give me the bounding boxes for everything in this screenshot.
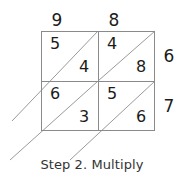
cell-bottom-right-ones-digit: 6 <box>133 109 149 125</box>
top-label-1: 8 <box>103 12 125 29</box>
right-label-1: 7 <box>160 98 178 115</box>
step-caption: Step 2. Multiply <box>0 157 184 172</box>
cell-bottom-left-tens-digit: 6 <box>47 86 63 102</box>
lattice-grid-graphic <box>0 0 184 179</box>
cell-top-left-ones-digit: 4 <box>76 59 92 75</box>
cell-top-left-tens-digit: 5 <box>47 36 63 52</box>
cell-bottom-right-tens-digit: 5 <box>104 86 120 102</box>
right-label-0: 6 <box>160 48 178 65</box>
cell-top-right-ones-digit: 8 <box>133 59 149 75</box>
cell-bottom-left-ones-digit: 3 <box>76 109 92 125</box>
lattice-multiplication-diagram: 9 8 6 7 5 4 4 8 6 3 5 6 Step 2. Multiply <box>0 0 184 179</box>
cell-top-right-tens-digit: 4 <box>104 36 120 52</box>
top-label-0: 9 <box>46 12 68 29</box>
lattice-diagonal-lines <box>10 31 155 160</box>
